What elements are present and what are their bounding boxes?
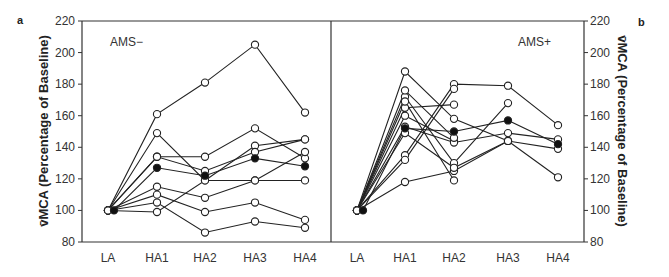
subject-marker: [301, 224, 308, 231]
mean-marker: [450, 128, 457, 135]
subject-marker: [153, 111, 160, 118]
subject-marker: [201, 153, 208, 160]
mean-line: [114, 158, 305, 210]
y-tick-label: 180: [55, 77, 75, 91]
subject-marker: [504, 82, 511, 89]
subject-marker: [301, 136, 308, 143]
subject-marker: [201, 208, 208, 215]
subject-marker: [201, 194, 208, 201]
mean-marker: [110, 207, 117, 214]
subject-marker: [301, 216, 308, 223]
subject-marker: [450, 177, 457, 184]
y-tick-label: 100: [55, 203, 75, 217]
group-label: AMS−: [110, 35, 143, 49]
subject-marker: [504, 137, 511, 144]
x-tick-label: HA3: [243, 251, 267, 265]
subject-marker: [153, 129, 160, 136]
y-axis-title-left: v̄MCA (Percentage of Baseline): [36, 35, 51, 227]
x-tick-label: HA4: [546, 251, 570, 265]
x-tick-label: HA2: [442, 251, 466, 265]
mean-marker: [504, 117, 511, 124]
subject-marker: [401, 87, 408, 94]
subject-marker: [251, 218, 258, 225]
mean-marker: [153, 164, 160, 171]
y-axis-title-right: v̄MCA (Percentage of Baseline): [615, 35, 630, 227]
y-tick-label: 200: [590, 46, 610, 60]
mean-marker: [401, 125, 408, 132]
subject-line: [108, 203, 305, 233]
y-tick-label: 200: [55, 46, 75, 60]
subject-marker: [153, 153, 160, 160]
panel-b-tag: b: [638, 16, 645, 28]
subject-marker: [450, 101, 457, 108]
x-tick-label: LA: [350, 251, 365, 265]
subject-marker: [554, 122, 561, 129]
subject-marker: [401, 156, 408, 163]
x-tick-label: HA3: [496, 251, 520, 265]
subject-marker: [301, 177, 308, 184]
subject-marker: [251, 125, 258, 132]
panel-a-plot: 80100120140160180200220LAHA1HA2HA3HA4AMS…: [55, 14, 317, 265]
x-tick-label: HA2: [193, 251, 217, 265]
y-tick-label: 160: [590, 109, 610, 123]
subject-line: [108, 45, 305, 211]
subject-marker: [504, 129, 511, 136]
subject-marker: [153, 191, 160, 198]
mean-marker: [201, 172, 208, 179]
subject-marker: [450, 115, 457, 122]
subject-marker: [401, 112, 408, 119]
subject-marker: [554, 174, 561, 181]
x-tick-label: HA1: [393, 251, 417, 265]
subject-marker: [153, 208, 160, 215]
subject-marker: [450, 85, 457, 92]
y-tick-label: 140: [590, 140, 610, 154]
mean-marker: [359, 207, 366, 214]
mean-marker: [554, 141, 561, 148]
subject-marker: [251, 177, 258, 184]
subject-marker: [301, 109, 308, 116]
y-tick-label: 80: [590, 235, 604, 249]
subject-marker: [201, 229, 208, 236]
y-tick-label: 220: [590, 14, 610, 28]
subject-marker: [301, 148, 308, 155]
y-tick-label: 80: [62, 235, 76, 249]
panel-a-tag: a: [17, 14, 24, 26]
subject-marker: [401, 98, 408, 105]
subject-marker: [401, 68, 408, 75]
figure: a b 80100120140160180200220LAHA1HA2HA3HA…: [0, 0, 669, 277]
subject-marker: [201, 79, 208, 86]
y-tick-label: 120: [590, 172, 610, 186]
x-tick-label: HA4: [293, 251, 317, 265]
mean-marker: [251, 155, 258, 162]
mean-marker: [301, 163, 308, 170]
y-tick-label: 140: [55, 140, 75, 154]
subject-marker: [251, 41, 258, 48]
y-tick-label: 120: [55, 172, 75, 186]
subject-marker: [153, 199, 160, 206]
subject-marker: [504, 99, 511, 106]
subject-marker: [251, 199, 258, 206]
subject-marker: [401, 178, 408, 185]
y-tick-label: 180: [590, 77, 610, 91]
panel-b-plot: 80100120140160180200220LAHA1HA2HA3HA4AMS…: [350, 14, 611, 265]
x-tick-label: LA: [101, 251, 116, 265]
subject-marker: [153, 183, 160, 190]
y-tick-label: 160: [55, 109, 75, 123]
x-tick-label: HA1: [145, 251, 169, 265]
subject-marker: [450, 164, 457, 171]
group-label: AMS+: [518, 35, 551, 49]
y-tick-label: 100: [590, 203, 610, 217]
y-tick-label: 220: [55, 14, 75, 28]
